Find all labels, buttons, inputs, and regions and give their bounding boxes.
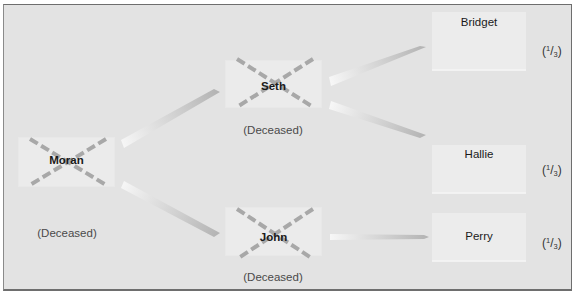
share-fraction: (1/3) — [542, 163, 562, 178]
share-fraction: (1/3) — [542, 44, 562, 59]
arrow-seth-bridget — [329, 46, 426, 86]
deceased-label: (Deceased) — [12, 227, 122, 239]
deceased-label: (Deceased) — [218, 271, 328, 283]
node-name: Hallie — [432, 148, 526, 160]
deceased-label: (Deceased) — [218, 124, 328, 136]
node-name: John — [225, 231, 322, 243]
node-moran: Moran — [18, 137, 115, 187]
node-name: Moran — [18, 154, 115, 166]
node-perry: Perry — [432, 213, 526, 261]
share-fraction: (1/3) — [542, 236, 562, 251]
node-hallie: Hallie — [432, 145, 526, 193]
arrow-john-perry — [330, 234, 429, 240]
node-seth: Seth — [225, 60, 322, 108]
arrow-seth-hallie — [329, 101, 426, 138]
node-name: Seth — [225, 80, 322, 92]
node-bridget: Bridget — [432, 12, 526, 70]
arrow-moran-seth — [121, 89, 220, 148]
arrow-moran-john — [121, 181, 220, 237]
node-john: John — [225, 207, 322, 256]
node-name: Perry — [432, 230, 526, 242]
node-name: Bridget — [432, 16, 526, 28]
